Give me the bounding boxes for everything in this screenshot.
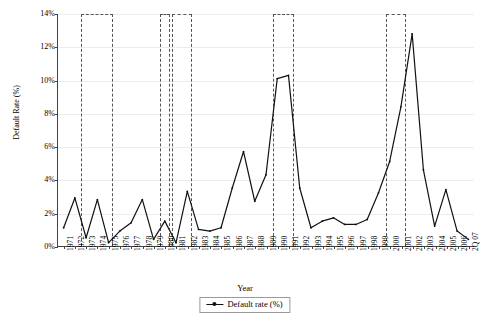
x-tick-mark <box>436 246 437 249</box>
data-point <box>456 230 458 232</box>
data-point <box>186 190 188 192</box>
data-point <box>231 187 233 189</box>
x-tick-label: 1999 <box>382 236 390 251</box>
x-tick-mark <box>143 246 144 249</box>
data-point <box>74 197 76 199</box>
y-tick-label: 14% <box>40 10 55 18</box>
x-tick-label: 1988 <box>258 236 266 251</box>
data-point <box>445 189 447 191</box>
x-tick-label: 1979 <box>157 236 165 251</box>
x-tick-label: 1987 <box>247 236 255 251</box>
y-tick-label: 12% <box>40 43 55 51</box>
data-point <box>63 227 65 229</box>
x-tick-label: 1972 <box>78 236 86 251</box>
x-tick-label: 1991 <box>292 236 300 251</box>
x-tick-label: 1980 <box>168 236 176 251</box>
data-point <box>411 33 413 35</box>
x-tick-mark <box>458 246 459 249</box>
x-tick-label: 1978 <box>146 236 154 251</box>
x-tick-label: 1995 <box>337 236 345 251</box>
x-tick-mark <box>323 246 324 249</box>
x-tick-mark <box>199 246 200 249</box>
x-tick-mark <box>312 246 313 249</box>
y-axis-title: Default Rate (%) <box>12 53 21 173</box>
x-tick-label: 1990 <box>281 236 289 251</box>
data-point <box>299 187 301 189</box>
data-point <box>96 199 98 201</box>
data-point <box>378 192 380 194</box>
x-tick-label: 1992 <box>303 236 311 251</box>
x-tick-label: 1973 <box>89 236 97 251</box>
x-tick-label: 1982 <box>191 236 199 251</box>
data-point <box>198 229 200 231</box>
data-point <box>243 151 245 153</box>
x-tick-label: 2006 <box>461 236 469 251</box>
data-point <box>310 227 312 229</box>
data-point <box>254 200 256 202</box>
x-tick-mark <box>368 246 369 249</box>
default-rate-chart: Default Rate (%) 0%2%4%6%8%10%12%14% 197… <box>0 0 490 318</box>
data-point <box>434 225 436 227</box>
y-tick-label: 2% <box>44 210 55 218</box>
x-tick-mark <box>413 246 414 249</box>
data-point <box>265 174 267 176</box>
legend-label-default-rate: Default rate (%) <box>227 300 282 309</box>
x-tick-label: 1993 <box>315 236 323 251</box>
chart-legend: Default rate (%) <box>199 297 290 313</box>
data-point <box>276 78 278 80</box>
data-point <box>423 169 425 171</box>
y-tick-label: 10% <box>40 77 55 85</box>
x-tick-label: 2003 <box>427 236 435 251</box>
x-tick-label: 1986 <box>236 236 244 251</box>
data-point <box>321 220 323 222</box>
x-tick-mark <box>447 246 448 249</box>
data-point <box>389 161 391 163</box>
x-tick-label: 1981 <box>179 236 187 251</box>
data-point <box>355 224 357 226</box>
x-tick-label: 1976 <box>123 236 131 251</box>
x-tick-label: 1984 <box>213 236 221 251</box>
data-point <box>119 230 121 232</box>
x-tick-label: 1994 <box>326 236 334 251</box>
x-tick-label: 1983 <box>202 236 210 251</box>
x-tick-mark <box>267 246 268 249</box>
x-tick-mark <box>402 246 403 249</box>
x-tick-mark <box>244 246 245 249</box>
x-axis-title: Year <box>0 283 490 293</box>
data-point <box>333 217 335 219</box>
x-tick-label: 1985 <box>224 236 232 251</box>
y-tick-mark <box>55 247 58 248</box>
x-tick-mark <box>188 246 189 249</box>
x-tick-label: 2005 <box>450 236 458 251</box>
x-tick-label: 1971 <box>67 236 75 251</box>
x-tick-mark <box>357 246 358 249</box>
data-point <box>366 219 368 221</box>
x-tick-mark <box>278 246 279 249</box>
x-tick-mark <box>165 246 166 249</box>
x-tick-label: 1975 <box>112 236 120 251</box>
data-point <box>209 230 211 232</box>
x-tick-mark <box>75 246 76 249</box>
x-tick-label: 1998 <box>371 236 379 251</box>
data-point <box>130 222 132 224</box>
data-point <box>344 224 346 226</box>
x-tick-label: 1977 <box>134 236 142 251</box>
x-tick-mark <box>233 246 234 249</box>
x-tick-label: 2001 <box>405 236 413 251</box>
y-tick-label: 6% <box>44 143 55 151</box>
x-tick-label: 2Q 07 <box>472 232 480 251</box>
y-tick-label: 0% <box>44 243 55 251</box>
y-tick-label: 8% <box>44 110 55 118</box>
data-point <box>141 199 143 201</box>
x-tick-mark <box>289 246 290 249</box>
x-tick-label: 1996 <box>348 236 356 251</box>
x-tick-label: 1974 <box>100 236 108 251</box>
plot-area: 0%2%4%6%8%10%12%14% 19711972197319741975… <box>57 14 474 247</box>
x-tick-label: 2000 <box>393 236 401 251</box>
x-tick-mark <box>154 246 155 249</box>
data-point <box>220 227 222 229</box>
data-point <box>400 106 402 108</box>
legend-line-marker-icon <box>206 301 223 308</box>
x-tick-mark <box>120 246 121 249</box>
data-point <box>164 220 166 222</box>
